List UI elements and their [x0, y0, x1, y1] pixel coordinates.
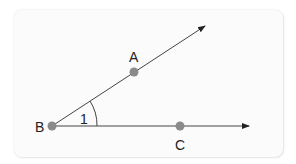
point-b	[48, 122, 57, 131]
label-c: C	[175, 137, 185, 153]
point-a	[130, 68, 139, 77]
angle-diagram: A B C 1	[0, 0, 296, 164]
label-a: A	[129, 49, 139, 65]
label-b: B	[35, 119, 44, 135]
angle-arc	[90, 101, 97, 126]
point-c	[176, 122, 185, 131]
angle-label: 1	[80, 111, 88, 127]
ray-ba	[52, 26, 205, 126]
